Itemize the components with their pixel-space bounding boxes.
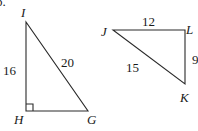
right-angle-marker — [26, 104, 33, 111]
vertex-label-i: I — [20, 5, 26, 20]
side-label-ig: 20 — [61, 55, 74, 70]
triangle-jlk: J L K 12 15 9 — [101, 14, 198, 105]
triangle-ihg-shape — [26, 22, 88, 111]
vertex-label-h: H — [13, 112, 24, 127]
side-label-jl: 12 — [142, 14, 155, 29]
vertex-label-j: J — [101, 24, 108, 39]
vertex-label-g: G — [87, 112, 97, 127]
triangle-jlk-shape — [113, 30, 185, 84]
triangle-ihg: I H G 16 20 — [3, 5, 97, 127]
side-label-jk: 15 — [126, 60, 139, 75]
triangles-diagram: b. I H G 16 20 J L K 12 15 9 — [0, 0, 198, 131]
vertex-label-k: K — [179, 90, 190, 105]
vertex-label-l: L — [185, 22, 193, 37]
side-label-lk: 9 — [192, 52, 198, 67]
side-label-ih: 16 — [3, 63, 17, 78]
problem-marker: b. — [0, 0, 6, 9]
